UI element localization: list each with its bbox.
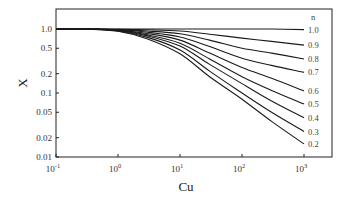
series-label-n-0.8: 0.8 [308,54,319,64]
y-tick-label: 0.5 [41,43,53,53]
y-tick-label: 1.0 [41,24,53,34]
x-tick-label: 10-1 [46,162,60,174]
series-label-n-0.9: 0.9 [308,40,319,50]
series-line-n-0.4 [56,29,304,118]
series-line-n-0.8 [56,29,304,59]
series-line-n-0.7 [56,29,304,72]
series-label-n-0.7: 0.7 [308,67,319,77]
x-tick-label: 101 [171,162,183,174]
series-lines [56,29,304,144]
series-labels: 1.00.90.80.70.60.50.40.30.2 [308,25,319,149]
series-line-n-0.3 [56,29,304,132]
y-tick-label: 0.01 [36,152,52,162]
x-axis-title: Cu [178,179,194,194]
x-tick-label: 102 [233,162,245,174]
legend-title: n [311,12,316,22]
series-label-n-0.2: 0.2 [308,139,319,149]
x-tick-label: 103 [295,162,307,174]
series-line-n-0.6 [56,29,304,91]
y-tick-label: 0.2 [41,69,52,79]
series-label-n-0.4: 0.4 [308,113,319,123]
series-label-n-0.6: 0.6 [308,86,319,96]
series-label-n-0.3: 0.3 [308,127,319,137]
y-tick-label: 0.05 [36,107,52,117]
series-label-n-0.5: 0.5 [308,99,319,109]
y-tick-label: 0.02 [36,133,52,143]
x-tick-label: 100 [109,162,121,174]
chart: 10-1100101102103 1.00.50.20.10.050.020.0… [0,0,347,202]
y-axis-title: X [15,78,30,88]
series-label-n-1.0: 1.0 [308,25,319,35]
y-tick-label: 0.1 [41,88,52,98]
